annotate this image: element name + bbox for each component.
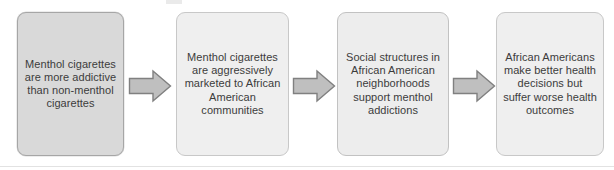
top-edge-artifact [166,0,182,4]
flowchart-step-1: Menthol cigarettes are more addictive th… [17,12,124,156]
flowchart-step-2: Menthol cigarettes are aggressively mark… [176,12,289,156]
bottom-divider [0,166,614,167]
flowchart-step-3: Social structures in African American ne… [337,12,449,156]
right-block-arrow-icon [452,69,496,103]
flowchart-step-2-label: Menthol cigarettes are aggressively mark… [183,51,282,117]
flowchart-step-4: African Americans make better health dec… [496,12,604,156]
flowchart-step-3-label: Social structures in African American ne… [344,51,442,117]
right-block-arrow-icon [292,69,336,103]
flowchart-step-1-label: Menthol cigarettes are more addictive th… [24,58,117,111]
flowchart-step-4-label: African Americans make better health dec… [503,51,597,117]
right-block-arrow-icon [128,69,172,103]
flowchart-diagram: Menthol cigarettes are more addictive th… [0,0,614,170]
